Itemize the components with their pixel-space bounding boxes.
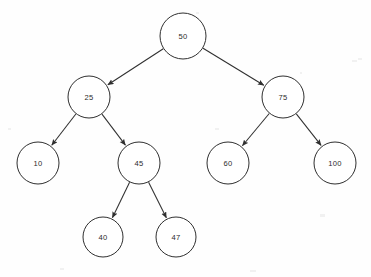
tree-edge [52, 114, 76, 145]
node-label: 50 [179, 32, 188, 41]
tree-node[interactable]: 25 [68, 76, 110, 118]
tree-edge [149, 182, 167, 218]
tree-edge [296, 114, 321, 145]
tree-edge [112, 182, 129, 217]
node-label: 40 [99, 233, 108, 242]
tree-edge [242, 114, 269, 146]
tree-edge [108, 49, 163, 85]
tree-node[interactable]: 47 [156, 217, 196, 257]
tree-node[interactable]: 100 [314, 142, 356, 184]
node-label: 45 [135, 159, 144, 168]
tree-node[interactable]: 45 [118, 142, 160, 184]
tree-edge [102, 114, 125, 145]
tree-node[interactable]: 40 [83, 217, 123, 257]
tree-node[interactable]: 60 [207, 142, 249, 184]
node-label: 75 [279, 93, 288, 102]
node-layer: 5025751045601004047 [17, 13, 356, 257]
tree-diagram-canvas: 5025751045601004047 [0, 0, 371, 277]
node-label: 25 [85, 93, 94, 102]
binary-tree-svg: 5025751045601004047 [0, 0, 371, 277]
node-label: 60 [224, 159, 233, 168]
node-label: 100 [328, 159, 341, 168]
tree-node[interactable]: 75 [262, 76, 304, 118]
tree-edge [203, 48, 264, 85]
node-label: 10 [34, 159, 43, 168]
tree-node[interactable]: 50 [160, 13, 206, 59]
edge-layer [52, 48, 321, 218]
tree-node[interactable]: 10 [17, 142, 59, 184]
node-label: 47 [172, 233, 181, 242]
